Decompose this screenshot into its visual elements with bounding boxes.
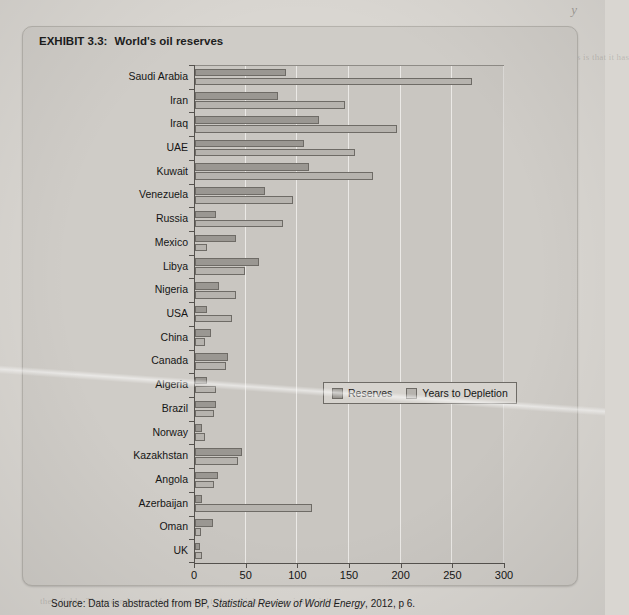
x-axis-tick-label: 50 <box>240 569 252 581</box>
legend-label: Reserves <box>348 387 392 399</box>
chart-bar-rows: Saudi ArabiaIranIraqUAEKuwaitVenezuelaRu… <box>23 65 579 563</box>
category-label: Azerbaijan <box>23 497 188 509</box>
bar-reserves <box>195 377 207 385</box>
bar-years-to-depletion <box>195 172 373 180</box>
bar-years-to-depletion <box>195 362 226 370</box>
bar-reserves <box>195 258 259 266</box>
bar-reserves <box>195 519 213 527</box>
bar-reserves <box>195 235 236 243</box>
bar-reserves <box>195 329 211 337</box>
chart-bar-row: Kazakhstan <box>23 444 579 468</box>
category-label: China <box>23 331 188 343</box>
legend-swatch-icon <box>406 388 417 399</box>
chart-bar-row: Russia <box>23 207 579 231</box>
bar-reserves <box>195 424 202 432</box>
legend-swatch-icon <box>332 388 343 399</box>
bar-reserves <box>195 495 202 503</box>
x-axis-tick-label: 200 <box>391 569 409 581</box>
bar-years-to-depletion <box>195 315 232 323</box>
category-label: Kazakhstan <box>23 449 188 461</box>
bar-years-to-depletion <box>195 457 238 465</box>
category-label: Libya <box>23 260 188 272</box>
bar-years-to-depletion <box>195 220 283 228</box>
bar-reserves <box>195 69 286 77</box>
chart-bar-row: Iraq <box>23 112 579 136</box>
bar-reserves <box>195 282 219 290</box>
category-label: Algeria <box>23 378 188 390</box>
bar-reserves <box>195 140 304 148</box>
bar-years-to-depletion <box>195 196 293 204</box>
y-axis-line <box>194 65 195 563</box>
x-axis-tick-label: 0 <box>191 569 197 581</box>
category-label: Saudi Arabia <box>23 70 188 82</box>
bar-years-to-depletion <box>195 504 312 512</box>
chart-bar-row: Nigeria <box>23 278 579 302</box>
x-axis-tick-label: 150 <box>340 569 358 581</box>
page-bleed-top-text: y <box>571 2 577 18</box>
legend-label: Years to Depletion <box>422 387 507 399</box>
x-axis-tick-label: 300 <box>495 569 513 581</box>
chart-bar-row: Azerbaijan <box>23 492 579 516</box>
bar-reserves <box>195 187 265 195</box>
bar-reserves <box>195 543 200 551</box>
bar-reserves <box>195 472 218 480</box>
chart-bar-row: Kuwait <box>23 160 579 184</box>
category-label: Canada <box>23 354 188 366</box>
chart-bar-row: UK <box>23 539 579 563</box>
category-label: Iraq <box>23 117 188 129</box>
bar-years-to-depletion <box>195 244 207 252</box>
source-title: Statistical Review of World Energy <box>209 598 365 609</box>
category-label: Nigeria <box>23 283 188 295</box>
source-suffix: , 2012, p 6. <box>365 598 415 609</box>
chart-bar-row: Mexico <box>23 231 579 255</box>
category-label: UK <box>23 544 188 556</box>
bar-years-to-depletion <box>195 386 216 394</box>
bar-reserves <box>195 306 207 314</box>
chart-bar-row: Norway <box>23 421 579 445</box>
category-label: UAE <box>23 141 188 153</box>
category-label: Mexico <box>23 236 188 248</box>
category-label: Brazil <box>23 402 188 414</box>
bar-years-to-depletion <box>195 528 201 536</box>
x-axis-line <box>194 563 505 564</box>
bar-reserves <box>195 448 242 456</box>
exhibit-title: EXHIBIT 3.3: World's oil reserves <box>39 35 223 47</box>
bar-reserves <box>195 163 309 171</box>
bar-reserves <box>195 92 278 100</box>
category-label: Norway <box>23 426 188 438</box>
bar-years-to-depletion <box>195 149 355 157</box>
bar-years-to-depletion <box>195 410 214 418</box>
chart-bar-row: Iran <box>23 89 579 113</box>
category-label: Kuwait <box>23 165 188 177</box>
bar-years-to-depletion <box>195 125 397 133</box>
category-label: Angola <box>23 473 188 485</box>
source-note: Source: Data is abstracted from BP,Stati… <box>51 598 415 609</box>
chart-bar-row: Libya <box>23 255 579 279</box>
chart-plot-wrapper: Saudi ArabiaIranIraqUAEKuwaitVenezuelaRu… <box>23 57 579 557</box>
chart-legend: Reserves Years to Depletion <box>323 382 517 404</box>
bar-years-to-depletion <box>195 78 472 86</box>
bar-years-to-depletion <box>195 433 205 441</box>
bar-reserves <box>195 211 216 219</box>
category-label: Iran <box>23 94 188 106</box>
bar-reserves <box>195 353 228 361</box>
legend-item-years-to-depletion: Years to Depletion <box>406 387 507 399</box>
category-label: Russia <box>23 212 188 224</box>
category-label: Oman <box>23 520 188 532</box>
legend-item-reserves: Reserves <box>332 387 392 399</box>
bar-years-to-depletion <box>195 291 236 299</box>
x-axis-tick-label: 250 <box>443 569 461 581</box>
bar-years-to-depletion <box>195 481 214 489</box>
exhibit-panel: EXHIBIT 3.3: World's oil reserves Saudi … <box>22 26 578 586</box>
chart-bar-row: China <box>23 326 579 350</box>
category-label: USA <box>23 307 188 319</box>
x-axis: 050100150200250300 <box>23 563 579 593</box>
chart-bar-row: Venezuela <box>23 184 579 208</box>
bar-years-to-depletion <box>195 101 345 109</box>
bar-years-to-depletion <box>195 267 245 275</box>
exhibit-number: EXHIBIT 3.3: <box>39 35 107 47</box>
x-axis-tick-label: 100 <box>288 569 306 581</box>
source-prefix: Source: Data is abstracted from BP, <box>51 598 209 609</box>
chart-bar-row: Oman <box>23 516 579 540</box>
exhibit-title-text: World's oil reserves <box>111 35 224 47</box>
